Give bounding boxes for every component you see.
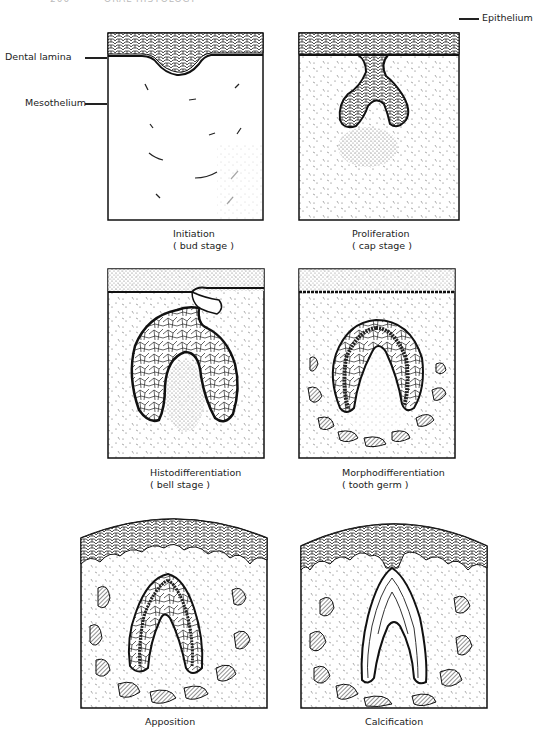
panel-histodifferentiation (107, 268, 265, 460)
bell-stage-illustration (107, 268, 265, 460)
caption-title: Calcification (365, 716, 423, 728)
caption-title: Initiation (173, 228, 234, 240)
panel-apposition (80, 508, 268, 710)
caption-title: Apposition (145, 716, 195, 728)
caption-initiation: Initiation ( bud stage ) (173, 228, 234, 252)
cap-stage-illustration (298, 32, 460, 222)
leader-line-mesothelium (85, 103, 107, 105)
caption-calcification: Calcification (365, 716, 423, 728)
caption-title: Histodifferentiation (150, 467, 241, 479)
leader-line-epithelium (459, 18, 479, 20)
panel-proliferation (298, 32, 460, 222)
tooth-germ-illustration (298, 268, 456, 460)
label-dental-lamina: Dental lamina (5, 51, 72, 62)
caption-title: Morphodifferentiation (342, 467, 445, 479)
caption-proliferation: Proliferation ( cap stage ) (352, 228, 412, 252)
caption-subtitle: ( bell stage ) (150, 479, 241, 491)
page-number: 200 (50, 0, 70, 4)
caption-histodifferentiation: Histodifferentiation ( bell stage ) (150, 467, 241, 491)
running-title: ORAL HISTOLOGY (104, 0, 197, 4)
bud-stage-illustration (107, 32, 264, 222)
calcification-illustration (300, 508, 488, 710)
panel-initiation (107, 32, 264, 222)
caption-subtitle: ( bud stage ) (173, 240, 234, 252)
caption-title: Proliferation (352, 228, 412, 240)
label-mesothelium: Mesothelium (25, 97, 86, 108)
caption-subtitle: ( tooth germ ) (342, 479, 445, 491)
page-header: 200 ORAL HISTOLOGY (50, 0, 197, 4)
caption-subtitle: ( cap stage ) (352, 240, 412, 252)
label-epithelium: Epithelium (482, 12, 533, 23)
panel-morphodifferentiation (298, 268, 456, 460)
apposition-illustration (80, 508, 268, 710)
caption-apposition: Apposition (145, 716, 195, 728)
caption-morphodifferentiation: Morphodifferentiation ( tooth germ ) (342, 467, 445, 491)
leader-line-dental-lamina (85, 57, 107, 59)
panel-calcification (300, 508, 488, 710)
